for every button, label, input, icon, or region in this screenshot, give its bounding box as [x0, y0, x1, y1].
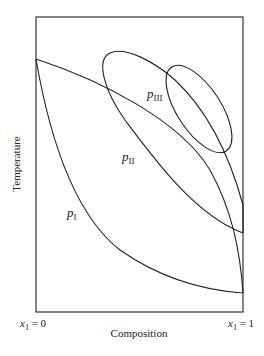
x-right-label: x1 = 1 — [227, 317, 254, 332]
x-left-label: x1 = 0 — [19, 317, 47, 332]
curve-pII-loop — [103, 51, 243, 233]
y-axis-label: Temperature — [10, 136, 22, 192]
x-axis-label: Composition — [111, 327, 168, 339]
curve-pI-bubble — [36, 59, 243, 293]
curve-pI-dew — [36, 59, 243, 293]
region-label-pII: pII — [121, 149, 135, 166]
region-label-pI: pI — [66, 205, 77, 222]
curve-pIII-ellipse — [153, 55, 244, 163]
plot-frame — [36, 17, 243, 312]
phase-diagram: pI pII pIII Temperature Composition x1 =… — [0, 0, 264, 356]
region-label-pIII: pIII — [146, 86, 163, 103]
